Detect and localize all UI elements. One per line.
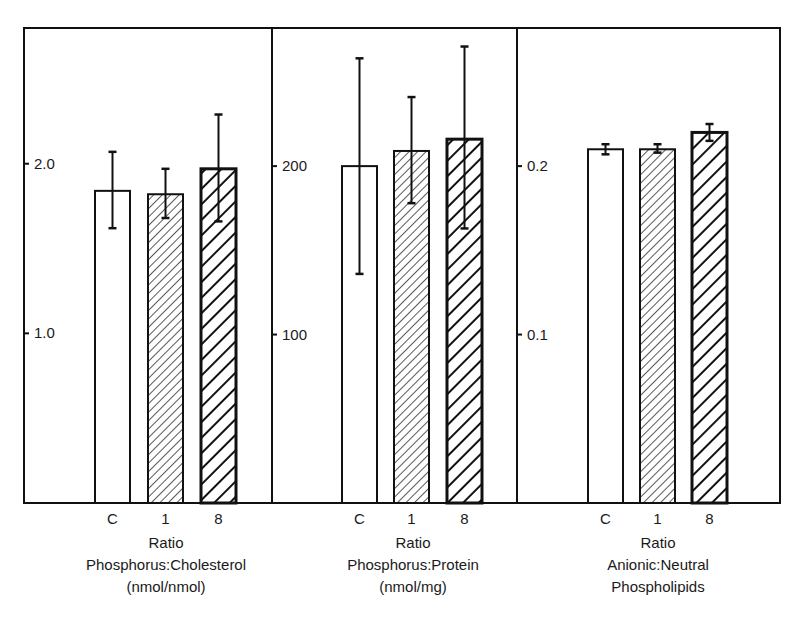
x-category-label: 8 (460, 510, 468, 527)
bar-1 (148, 194, 183, 503)
x-category-label: 1 (407, 510, 415, 527)
x-category-label: C (354, 510, 365, 527)
caption-line: Anionic:Neutral (538, 554, 778, 576)
panel-3-caption: Ratio Anionic:Neutral Phospholipids (538, 532, 778, 598)
caption-line: Phospholipids (538, 576, 778, 598)
bar-8 (692, 132, 727, 503)
caption-line: Ratio (538, 532, 778, 554)
y-tick-label: 2.0 (34, 155, 55, 172)
x-category-label: 1 (653, 510, 661, 527)
chart-panel-1: 1.02.0C18 (24, 115, 236, 527)
chart-panel-3: 0.10.2C18 (517, 124, 727, 527)
x-category-label: 1 (161, 510, 169, 527)
y-tick-label: 200 (282, 157, 307, 174)
caption-line: (nmol/nmol) (46, 576, 286, 598)
x-category-label: 8 (214, 510, 222, 527)
panel-1-caption: Ratio Phosphorus:Cholesterol (nmol/nmol) (46, 532, 286, 598)
caption-line: Phosphorus:Protein (293, 554, 533, 576)
caption-line: Ratio (293, 532, 533, 554)
bar-1 (640, 149, 675, 503)
panel-2-caption: Ratio Phosphorus:Protein (nmol/mg) (293, 532, 533, 598)
y-tick-label: 1.0 (34, 324, 55, 341)
x-category-label: C (600, 510, 611, 527)
caption-line: Ratio (46, 532, 286, 554)
chart-panel-2: 100200C18 (272, 47, 482, 527)
y-tick-label: 0.1 (527, 326, 548, 343)
caption-line: (nmol/mg) (293, 576, 533, 598)
y-tick-label: 0.2 (527, 157, 548, 174)
y-tick-label: 100 (282, 326, 307, 343)
bar-C (95, 191, 130, 503)
caption-line: Phosphorus:Cholesterol (46, 554, 286, 576)
x-category-label: 8 (705, 510, 713, 527)
x-category-label: C (107, 510, 118, 527)
bar-C (588, 149, 623, 503)
